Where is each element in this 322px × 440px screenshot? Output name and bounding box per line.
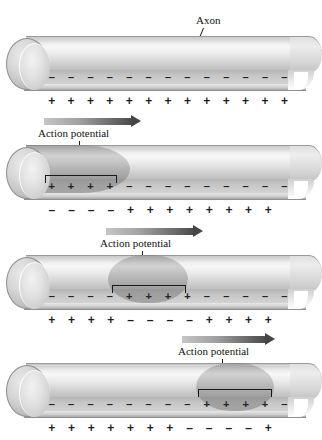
outside-charges-row: ++++––––++++ (42, 313, 278, 327)
outside-charges-row: ––––++++++++ (42, 203, 278, 217)
charge-positive: + (42, 181, 61, 192)
charge-positive: + (258, 315, 278, 326)
charge-positive: + (199, 205, 219, 216)
charge-positive: + (121, 423, 141, 434)
charge-positive: + (139, 96, 158, 107)
charge-positive: + (81, 315, 101, 326)
charge-negative: – (255, 181, 274, 192)
charge-negative: – (178, 72, 197, 83)
charge-negative: – (61, 399, 80, 410)
charge-positive: + (120, 291, 139, 302)
axon-cutaway-end (290, 255, 322, 292)
charge-positive: + (160, 205, 180, 216)
charge-positive: + (140, 205, 160, 216)
charge-negative: – (120, 72, 139, 83)
charge-negative: – (100, 72, 119, 83)
axon-cutaway-end (290, 363, 322, 400)
charge-negative: – (275, 399, 294, 410)
charge-positive: + (160, 423, 180, 434)
charge-negative: – (158, 72, 177, 83)
charge-positive: + (219, 315, 239, 326)
charge-negative: – (236, 181, 255, 192)
charge-negative: – (275, 181, 294, 192)
axon-lower-wall (24, 84, 306, 91)
charge-positive: + (140, 423, 160, 434)
charge-negative: – (217, 72, 236, 83)
charge-negative: – (139, 399, 158, 410)
charge-positive: + (61, 181, 80, 192)
charge-negative: – (101, 205, 121, 216)
action-potential-label: Action potential (38, 127, 109, 139)
charge-negative: – (61, 72, 80, 83)
charge-negative: – (239, 423, 259, 434)
charge-positive: + (62, 315, 82, 326)
charge-negative: – (139, 72, 158, 83)
charge-positive: + (197, 96, 216, 107)
axon-lower-wall (24, 411, 306, 418)
charge-negative: – (180, 423, 200, 434)
charge-negative: – (160, 315, 180, 326)
outside-charges-row: +++++++++++++ (42, 94, 294, 108)
charge-negative: – (178, 181, 197, 192)
inside-charges-row: ––––––––++++– (42, 397, 294, 411)
charge-negative: – (120, 181, 139, 192)
charge-negative: – (178, 399, 197, 410)
axon-lower-wall (24, 303, 306, 310)
charge-negative: – (197, 181, 216, 192)
charge-positive: + (158, 291, 177, 302)
charge-negative: – (81, 205, 101, 216)
charge-positive: + (178, 96, 197, 107)
action-potential-arrow (44, 118, 132, 125)
charge-positive: + (61, 96, 80, 107)
charge-negative: – (121, 315, 141, 326)
charge-positive: + (258, 423, 278, 434)
charge-negative: – (199, 423, 219, 434)
charge-positive: + (158, 96, 177, 107)
charge-positive: + (236, 399, 255, 410)
charge-negative: – (197, 72, 216, 83)
charge-positive: + (180, 205, 200, 216)
charge-negative: – (255, 72, 274, 83)
charge-negative: – (81, 72, 100, 83)
charge-positive: + (219, 205, 239, 216)
charge-positive: + (62, 423, 82, 434)
charge-positive: + (120, 96, 139, 107)
axon-cutaway-end (290, 36, 322, 73)
charge-negative: – (217, 181, 236, 192)
charge-negative: – (100, 399, 119, 410)
axon-label: Axon (196, 14, 220, 26)
charge-negative: – (275, 291, 294, 302)
charge-positive: + (42, 315, 62, 326)
charge-negative: – (197, 291, 216, 302)
charge-negative: – (255, 291, 274, 302)
charge-negative: – (236, 291, 255, 302)
action-potential-arrow (182, 336, 266, 343)
charge-negative: – (120, 399, 139, 410)
charge-positive: + (42, 423, 62, 434)
charge-positive: + (255, 96, 274, 107)
charge-positive: + (258, 205, 278, 216)
charge-negative: – (81, 399, 100, 410)
outside-charges-row: +++++++––––+ (42, 421, 278, 435)
charge-negative: – (275, 72, 294, 83)
charge-negative: – (158, 399, 177, 410)
charge-positive: + (81, 423, 101, 434)
charge-positive: + (217, 96, 236, 107)
inside-charges-row: ++++––––––––– (42, 179, 294, 193)
action-potential-label: Action potential (100, 237, 171, 249)
charge-positive: + (239, 205, 259, 216)
charge-positive: + (42, 96, 61, 107)
charge-positive: + (255, 399, 274, 410)
charge-negative: – (180, 315, 200, 326)
charge-positive: + (101, 315, 121, 326)
charge-positive: + (81, 181, 100, 192)
charge-positive: + (197, 399, 216, 410)
charge-positive: + (100, 96, 119, 107)
charge-negative: – (140, 315, 160, 326)
charge-negative: – (42, 399, 61, 410)
charge-negative: – (236, 72, 255, 83)
charge-negative: – (42, 72, 61, 83)
charge-positive: + (121, 205, 141, 216)
charge-positive: + (217, 399, 236, 410)
charge-positive: + (101, 423, 121, 434)
